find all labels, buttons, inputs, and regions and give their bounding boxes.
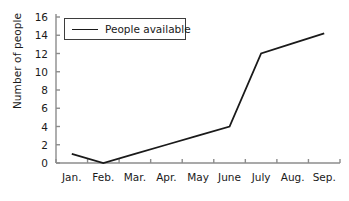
series-line-people-available: [72, 33, 324, 163]
legend: People available: [64, 18, 186, 40]
legend-line-swatch: [72, 29, 98, 30]
legend-entry-label: People available: [105, 23, 191, 35]
line-chart-figure: Number of people 0246810121416 Jan.Feb.M…: [0, 0, 349, 201]
